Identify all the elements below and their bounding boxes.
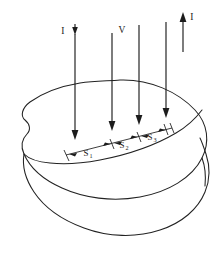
segment-3-label: S [147,132,152,142]
segment-3-label-subscript: 3 [153,136,156,143]
exit-current-arrowhead [180,12,187,22]
current-flow-lines-group [72,22,170,140]
current-in-label-arrow-group [72,24,78,35]
segment-1-label-subscript: 1 [89,152,92,159]
current-in-label: I [61,26,64,36]
flow-line-4-arrowhead [163,108,170,118]
voltage-label: V [118,25,125,35]
flow-line-1-arrowhead [72,130,79,140]
segment-arrow-s1-right [103,143,111,147]
segment-tick-start [64,150,69,161]
labels-group: I V I S 1 S 2 S 3 [61,12,193,159]
slab-top-surface-outline [22,80,207,199]
segment-arrow-s3-right [158,129,166,133]
flow-line-3-arrowhead [136,115,143,125]
slab-front-edge [24,110,202,164]
physics-diagram-figure: I V I S 1 S 2 S 3 [0,0,220,256]
flow-line-2-arrowhead [109,121,116,131]
segment-3-label-group: S 3 [147,132,156,143]
segment-2-label-subscript: 2 [125,144,128,151]
slab-shape-group [22,80,209,235]
exit-current-arrow-group [180,12,187,52]
segment-arrow-s2-right [130,136,138,140]
segment-1-label: S [83,148,88,158]
segment-1-label-group: S 1 [83,148,92,159]
slab-right-seam [202,158,205,186]
segment-2-label: S [119,140,124,150]
slab-bottom-outline [23,138,208,235]
segment-2-label-group: S 2 [119,140,128,151]
current-in-label-arrowhead [72,27,78,35]
diagram-canvas: I V I S 1 S 2 S 3 [0,0,220,256]
current-out-label: I [190,12,193,22]
